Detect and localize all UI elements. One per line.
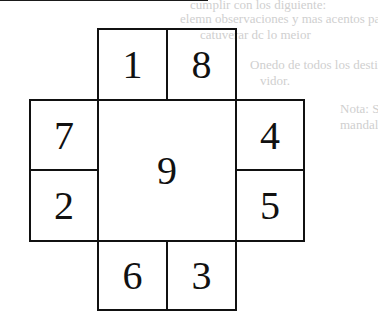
ghost-text-line: vidor. [260,73,290,89]
ghost-text-line: elemn observaciones y mas acentos para q… [180,11,378,27]
box-label: 4 [260,112,280,159]
box-8: 8 [166,28,237,101]
box-label: 7 [54,112,74,159]
box-9: 9 [97,99,237,242]
box-label: 9 [157,147,177,194]
ghost-text-line: Onedo de todos los destinos su mas humil… [250,57,378,73]
box-6: 6 [97,240,168,311]
box-7: 7 [29,99,99,171]
box-4: 4 [235,99,305,171]
box-label: 3 [192,252,212,299]
box-label: 1 [123,41,143,88]
ghost-text-line: Nota: Si tienes algun comentario o aclar… [340,101,378,117]
box-1: 1 [97,28,168,101]
box-3: 3 [166,240,237,311]
box-label: 2 [54,182,74,229]
box-label: 5 [260,182,280,229]
box-label: 6 [123,252,143,299]
ghost-text-line: mandalo a la editorial. [340,117,378,133]
box-5: 5 [235,169,305,242]
box-label: 8 [192,41,212,88]
box-2: 2 [29,169,99,242]
